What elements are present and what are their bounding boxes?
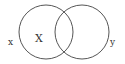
outer-left-label: x <box>8 37 13 47</box>
inner-left-label: X <box>35 32 43 45</box>
outer-right-label: y <box>109 37 116 47</box>
right-circle <box>55 5 109 59</box>
venn-diagram: x X y <box>0 0 125 64</box>
left-circle <box>19 5 73 59</box>
